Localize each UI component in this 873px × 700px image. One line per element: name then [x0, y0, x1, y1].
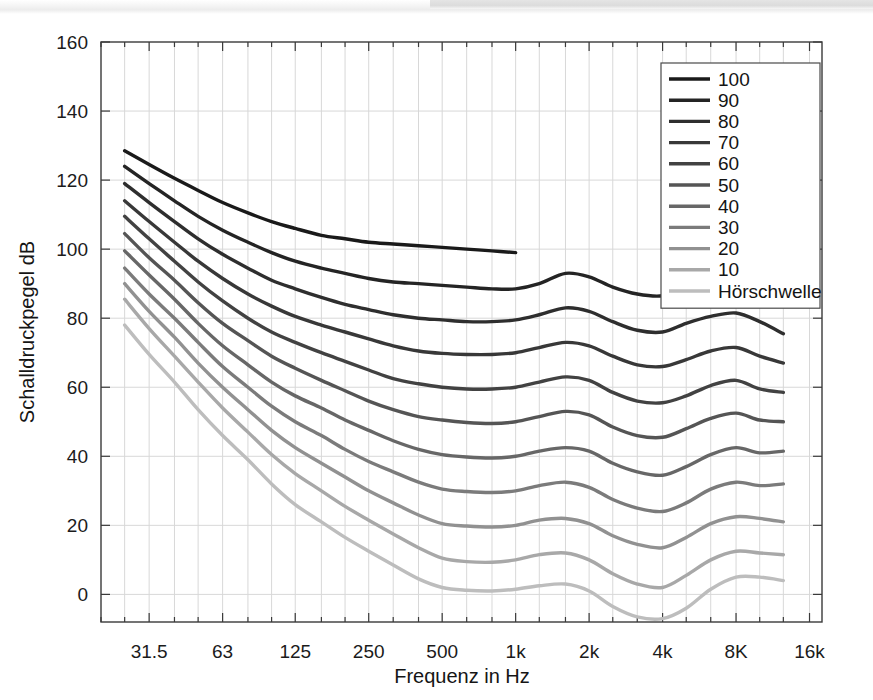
- y-tick-label: 60: [67, 377, 88, 398]
- legend-item-label: 100: [718, 69, 750, 90]
- x-axis-title: Frequenz in Hz: [394, 665, 530, 687]
- legend-item-label: 40: [718, 196, 739, 217]
- legend-item-label: 50: [718, 175, 739, 196]
- legend-item-label: Hörschwelle: [718, 281, 821, 302]
- x-tick-label: 1k: [506, 641, 527, 662]
- y-tick-label: 120: [56, 170, 88, 191]
- y-axis-title: Schalldruckpegel dB: [16, 241, 38, 423]
- x-tick-label: 31.5: [131, 641, 168, 662]
- y-tick-label: 80: [67, 308, 88, 329]
- legend-item-label: 10: [718, 259, 739, 280]
- legend-item-label: 20: [718, 238, 739, 259]
- chart-canvas: 020406080100120140160 31.5631252505001k2…: [0, 0, 873, 700]
- legend-item-label: 90: [718, 90, 739, 111]
- legend[interactable]: 100908070605040302010Hörschwelle: [661, 63, 821, 308]
- y-tick-label: 40: [67, 446, 88, 467]
- equal-loudness-contour-figure: 020406080100120140160 31.5631252505001k2…: [0, 0, 873, 700]
- legend-item-label: 60: [718, 153, 739, 174]
- series-line-10: [125, 299, 784, 588]
- x-tick-label: 2k: [579, 641, 600, 662]
- series-line-100: [125, 151, 516, 253]
- y-tick-label: 0: [77, 584, 88, 605]
- y-axis-tick-labels: 020406080100120140160: [56, 32, 88, 605]
- x-tick-label: 16k: [794, 641, 825, 662]
- y-tick-label: 20: [67, 515, 88, 536]
- x-tick-label: 250: [353, 641, 385, 662]
- x-tick-label: 4k: [653, 641, 674, 662]
- legend-item-label: 80: [718, 111, 739, 132]
- x-tick-label: 500: [426, 641, 458, 662]
- x-tick-label: 63: [212, 641, 233, 662]
- y-tick-label: 140: [56, 101, 88, 122]
- x-tick-label: 125: [279, 641, 311, 662]
- legend-item-label: 30: [718, 217, 739, 238]
- x-axis-tick-labels: 31.5631252505001k2k4k8K16k: [131, 641, 826, 662]
- y-tick-label: 100: [56, 239, 88, 260]
- legend-item-label: 70: [718, 132, 739, 153]
- x-tick-label: 8K: [724, 641, 748, 662]
- y-tick-label: 160: [56, 32, 88, 53]
